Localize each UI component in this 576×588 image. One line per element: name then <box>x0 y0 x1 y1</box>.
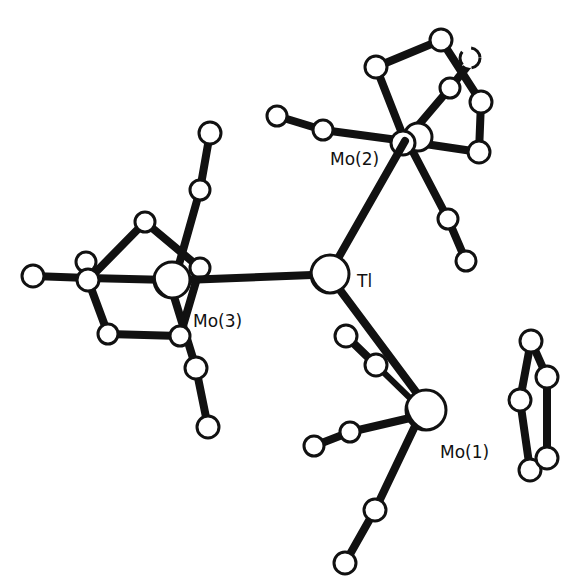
molecular-structure-diagram: Mo(2) Tl Mo(3) Mo(1) <box>0 0 576 588</box>
label-mo3: Mo(3) <box>193 311 242 331</box>
tl-atom <box>311 255 349 293</box>
mo2-fragment <box>267 29 492 271</box>
ring-right <box>509 330 558 481</box>
label-mo1: Mo(1) <box>440 442 489 462</box>
label-mo2: Mo(2) <box>330 149 379 169</box>
label-tl: Tl <box>356 271 372 291</box>
mo1-fragment <box>304 325 446 574</box>
mo3-atom <box>154 262 190 298</box>
